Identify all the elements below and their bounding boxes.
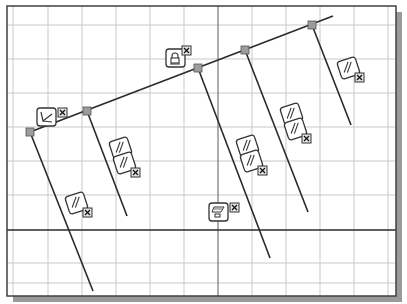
sketch-point-p2[interactable] bbox=[194, 64, 202, 72]
delete-constraint-icon[interactable] bbox=[302, 134, 311, 143]
delete-constraint-icon[interactable] bbox=[58, 108, 67, 117]
canvas-background bbox=[7, 6, 396, 296]
sketch-point-p3[interactable] bbox=[241, 46, 249, 54]
delete-constraint-icon[interactable] bbox=[131, 168, 140, 177]
delete-constraint-icon[interactable] bbox=[182, 46, 191, 55]
delete-constraint-icon[interactable] bbox=[230, 203, 239, 212]
sketch-point-p4[interactable] bbox=[308, 21, 316, 29]
sketch-canvas[interactable] bbox=[0, 0, 407, 304]
sketch-point-p1[interactable] bbox=[83, 107, 91, 115]
delete-constraint-icon[interactable] bbox=[83, 208, 92, 217]
delete-constraint-icon[interactable] bbox=[258, 166, 267, 175]
sketch-viewport[interactable] bbox=[0, 0, 407, 304]
sketch-point-p0[interactable] bbox=[26, 128, 34, 136]
perpendicular-icon[interactable] bbox=[37, 108, 56, 126]
delete-constraint-icon[interactable] bbox=[355, 73, 364, 82]
ground-plane-icon[interactable] bbox=[209, 203, 228, 221]
